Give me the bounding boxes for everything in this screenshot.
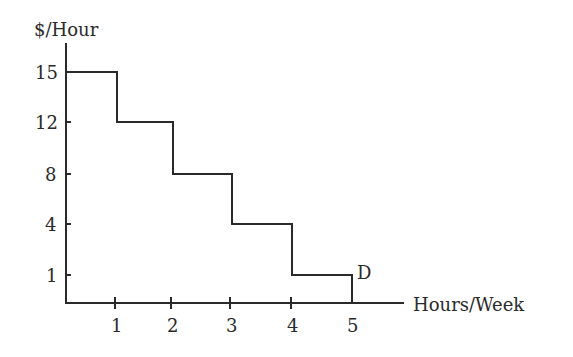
y-tick-label-1: 1 — [46, 265, 57, 286]
y-tick-label-12: 12 — [35, 112, 58, 133]
x-tick-label-4: 4 — [287, 315, 298, 336]
curve-label-d: D — [357, 262, 371, 283]
demand-step-chart: $/Hour Hours/Week D 15 12 8 4 1 1 2 3 4 … — [0, 0, 573, 357]
x-axis-label: Hours/Week — [413, 294, 525, 315]
y-tick-label-8: 8 — [45, 164, 56, 185]
x-tick-label-2: 2 — [167, 315, 178, 336]
y-tick-label-15: 15 — [35, 62, 58, 83]
y-axis-label: $/Hour — [34, 19, 99, 40]
x-tick-label-1: 1 — [111, 315, 122, 336]
demand-curve-d — [66, 72, 352, 303]
x-tick-label-5: 5 — [347, 315, 358, 336]
x-tick-label-3: 3 — [226, 315, 237, 336]
y-tick-label-4: 4 — [45, 214, 56, 235]
